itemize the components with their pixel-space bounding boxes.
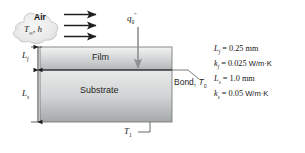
heat-flux-superscript: ″ [134,12,136,18]
t1-leader-line [138,122,150,132]
substrate-thickness-subscript: s [27,94,29,100]
property-unit: W/m·K [249,59,272,68]
property-equals: = [222,89,227,98]
property-value: 0.025 [228,59,247,68]
heat-flux-subscript: 0 [132,19,135,25]
property-list: Lf = 0.25 mm kf = 0.025 W/m·K Ls = 1.0 m… [214,43,272,102]
air-label: Air [34,12,46,22]
diagram-canvas: Air T∞, h q0″ Film Substrate Lf Ls Bond,… [0,0,305,153]
property-value: 1.0 mm [229,74,254,83]
property-equals: = [221,59,226,68]
substrate-layer [40,70,172,122]
airflow-arrows-icon [64,15,96,37]
property-equals: = [222,44,227,53]
property-subscript: f [218,64,219,70]
substrate-thickness-label: Ls [22,88,29,100]
property-subscript: f [219,49,220,55]
convection-coefficient-symbol: h [38,24,43,34]
property-value: 0.05 [229,89,244,98]
property-subscript: s [218,93,220,99]
bond-label: Bond, T0 [174,77,207,89]
substrate-label: Substrate [80,85,119,95]
bond-text: Bond, [174,77,196,87]
bond-temp-subscript: 0 [204,83,207,89]
property-value: 0.25 mm [229,44,259,53]
property-row: ks = 0.05 W/m·K [214,88,272,103]
property-row: kf = 0.025 W/m·K [214,58,272,73]
bottom-temp-subscript: 1 [129,132,132,138]
property-equals: = [223,74,228,83]
film-thickness-label: Lf [22,50,29,62]
property-subscript: s [219,78,221,84]
property-row: Ls = 1.0 mm [214,73,272,88]
freestream-conditions-label: T∞, h [24,24,42,36]
heat-flux-label: q0″ [127,12,137,25]
film-label: Film [92,52,109,62]
bottom-temp-label: T1 [124,126,132,138]
property-row: Lf = 0.25 mm [214,43,272,58]
film-thickness-subscript: f [27,56,29,62]
property-unit: W/m·K [245,89,268,98]
